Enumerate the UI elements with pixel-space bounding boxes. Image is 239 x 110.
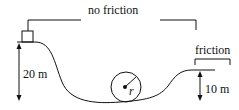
no-friction-label: no friction xyxy=(88,3,138,17)
no-friction-bracket xyxy=(28,20,196,31)
right-arrow-head-up xyxy=(198,71,203,77)
roller-coaster-diagram: no friction r 20 m friction 10 m xyxy=(0,0,239,110)
friction-bracket xyxy=(195,59,230,65)
left-height-label: 20 m xyxy=(23,67,48,81)
radius-label: r xyxy=(129,84,134,98)
right-arrow-head-down xyxy=(198,95,203,101)
left-arrow-head-up xyxy=(17,43,22,49)
block xyxy=(22,31,33,42)
left-arrow-head-down xyxy=(17,95,22,101)
friction-label: friction xyxy=(195,43,230,57)
right-height-label: 10 m xyxy=(205,82,230,96)
